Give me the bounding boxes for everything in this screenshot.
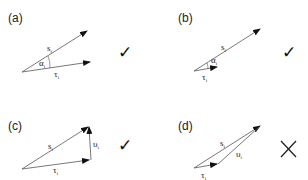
label-s-c: si	[48, 141, 54, 152]
label-s-a: si	[47, 43, 53, 54]
label-tau-d: τi	[201, 170, 207, 180]
label-alpha-a: αi	[39, 58, 46, 69]
cross-icon-d	[281, 141, 296, 157]
panel-label-d: (d)	[178, 119, 193, 133]
check-icon-b: ✓	[282, 43, 296, 62]
label-tau-a: τi	[54, 69, 60, 80]
panel-label-b: (b)	[178, 11, 193, 25]
angle-arc-b	[207, 63, 208, 69]
label-s-b: si	[221, 42, 227, 53]
panel-label-a: (a)	[8, 11, 23, 25]
vector-s-d	[194, 126, 260, 168]
label-upsilon-c: υi	[93, 139, 99, 150]
vector-s-c	[22, 127, 88, 169]
vector-upsilon-c	[89, 127, 91, 160]
angle-arc-a	[48, 56, 50, 68]
vector-s-a	[22, 31, 87, 72]
panel-c: (c) si τi υi ✓	[8, 119, 132, 176]
panel-a: (a) si αi τi ✓	[8, 11, 132, 80]
check-icon-a: ✓	[118, 43, 132, 62]
panel-b: (b) si αi τi ✓	[178, 11, 296, 83]
check-icon-c: ✓	[118, 136, 132, 155]
vector-s-b	[194, 29, 260, 71]
label-tau-c: τi	[53, 165, 59, 176]
label-s-d: si	[220, 138, 226, 149]
panel-label-c: (c)	[8, 119, 22, 133]
vector-diagram: (a) si αi τi ✓ (b) si αi τi ✓ (c) si τi …	[0, 0, 308, 180]
panel-d: (d) si τi υi	[178, 119, 296, 180]
label-tau-b: τi	[202, 72, 208, 83]
label-upsilon-d: υi	[236, 149, 242, 160]
